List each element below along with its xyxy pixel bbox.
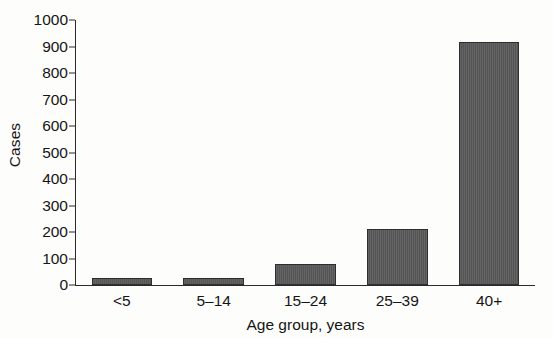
x-tick-label: 40+: [476, 292, 502, 311]
x-tick-label: 15–24: [284, 292, 327, 311]
y-tick-label: 0: [59, 277, 68, 293]
plot-area: [76, 20, 535, 285]
y-axis-tick-labels: 01002003004005006007008009001000: [26, 20, 72, 285]
y-tick-label: 300: [42, 198, 68, 214]
bar[interactable]: [275, 264, 336, 285]
y-tick-label: 800: [42, 65, 68, 81]
x-tick-label: <5: [113, 292, 131, 311]
x-axis-spine: [75, 285, 535, 286]
y-tick-label: 600: [42, 118, 68, 134]
bar[interactable]: [459, 42, 520, 285]
y-tick-label: 1000: [34, 12, 68, 28]
y-tick-label: 700: [42, 92, 68, 108]
y-tick-label: 500: [42, 145, 68, 161]
y-tick-label: 100: [42, 251, 68, 267]
y-tick-label: 200: [42, 224, 68, 240]
y-tick-label: 900: [42, 39, 68, 55]
x-tick-label: 5–14: [196, 292, 230, 311]
x-tick-label: 25–39: [376, 292, 419, 311]
bar[interactable]: [92, 278, 153, 285]
bar-chart-figure: Cases 01002003004005006007008009001000 <…: [0, 0, 553, 338]
bar[interactable]: [367, 229, 428, 285]
bar-slot: [459, 20, 520, 285]
bar-slot: [367, 20, 428, 285]
y-axis-title-text: Cases: [6, 123, 24, 167]
x-axis-tick-labels: <55–1415–2425–3940+: [76, 292, 535, 314]
bar-slot: [183, 20, 244, 285]
bar-slot: [275, 20, 336, 285]
x-axis-title: Age group, years: [76, 316, 535, 334]
bar[interactable]: [183, 278, 244, 285]
y-tick-label: 400: [42, 171, 68, 187]
bar-slot: [92, 20, 153, 285]
